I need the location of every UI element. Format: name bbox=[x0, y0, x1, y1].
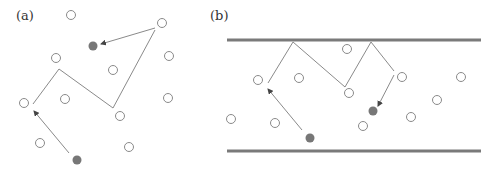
open-particle-b bbox=[271, 119, 280, 128]
open-particle-a bbox=[20, 99, 29, 108]
diagram-canvas: (a) (b) bbox=[0, 0, 499, 170]
filled-particle-b bbox=[306, 134, 315, 143]
panel-a-label: (a) bbox=[16, 8, 34, 23]
open-particle-a bbox=[109, 66, 118, 75]
open-particle-b bbox=[295, 74, 304, 83]
arrow-b bbox=[378, 75, 394, 106]
open-particle-a bbox=[36, 139, 45, 148]
path-segment-b bbox=[371, 42, 394, 71]
open-particle-b bbox=[433, 96, 442, 105]
open-particle-a bbox=[116, 112, 125, 121]
open-particle-a bbox=[164, 94, 173, 103]
path-segment-a bbox=[113, 30, 155, 108]
open-particle-b bbox=[227, 115, 236, 124]
open-particle-b bbox=[345, 89, 354, 98]
arrow-a bbox=[101, 28, 155, 44]
open-particle-a bbox=[158, 19, 167, 28]
open-particle-b bbox=[359, 122, 368, 131]
particles-layer bbox=[20, 11, 482, 165]
open-particle-a bbox=[61, 95, 70, 104]
open-particle-a bbox=[165, 52, 174, 61]
open-particle-a bbox=[52, 54, 61, 63]
open-particle-b bbox=[457, 73, 466, 82]
open-particle-a bbox=[67, 11, 76, 20]
open-particle-b bbox=[398, 73, 407, 82]
open-particle-b bbox=[254, 76, 263, 85]
panel-b-label: (b) bbox=[210, 8, 228, 23]
open-particle-b bbox=[407, 113, 416, 122]
path-segment-a bbox=[33, 69, 59, 104]
open-particle-b bbox=[343, 45, 352, 54]
path-segment-b bbox=[268, 42, 293, 83]
filled-particle-a bbox=[89, 42, 98, 51]
filled-particle-a bbox=[73, 156, 82, 165]
open-particle-a bbox=[125, 143, 134, 152]
filled-particle-b bbox=[369, 107, 378, 116]
